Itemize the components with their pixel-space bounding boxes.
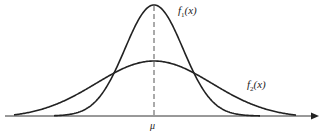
label-f2: f2(x) (247, 79, 266, 93)
label-mu: μ (150, 121, 155, 131)
label-f1: f1(x) (178, 5, 197, 19)
x-axis-arrow-icon (311, 113, 319, 120)
diagram-canvas (0, 0, 319, 133)
normal-curves-diagram: f1(x) f2(x) μ (0, 0, 319, 133)
